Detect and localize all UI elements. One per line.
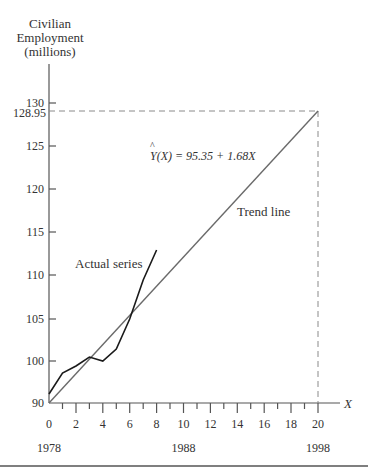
trend-line-label: Trend line	[237, 204, 291, 219]
y-axis-title: Civilian Employment (millions)	[16, 16, 84, 59]
svg-text:120: 120	[26, 182, 44, 196]
svg-text:0: 0	[46, 417, 52, 431]
trend-hat: ^	[150, 140, 155, 151]
x-axis-label: X	[343, 396, 353, 411]
y-ticks	[49, 103, 56, 361]
y-axis-title-line2: Employment	[16, 30, 84, 45]
svg-text:110: 110	[26, 268, 44, 282]
svg-text:125: 125	[26, 139, 44, 153]
svg-text:18: 18	[285, 417, 297, 431]
x-ticks	[63, 403, 319, 413]
svg-text:2: 2	[73, 417, 79, 431]
svg-text:4: 4	[100, 417, 106, 431]
svg-text:12: 12	[204, 417, 216, 431]
y-tick-labels: 90 100 105 110 115 120 125 130	[26, 96, 44, 410]
x-tick-labels: 0 2 4 6 8 10 12 14 16 18 20	[46, 417, 324, 431]
svg-text:6: 6	[127, 417, 133, 431]
svg-text:90: 90	[32, 396, 44, 410]
actual-series-label: Actual series	[75, 256, 143, 271]
svg-text:16: 16	[258, 417, 270, 431]
trend-equation: Y(X) = 95.35 + 1.68X	[150, 149, 256, 163]
svg-text:105: 105	[26, 312, 44, 326]
reference-value-label: 128.95	[13, 106, 46, 120]
actual-series-line	[49, 250, 157, 394]
year-labels: 1978 1988 1998	[37, 441, 330, 455]
y-axis-title-line1: Civilian	[29, 16, 71, 31]
svg-text:8: 8	[154, 417, 160, 431]
chart: Civilian Employment (millions) X 90 100 …	[0, 0, 368, 474]
svg-text:1978: 1978	[37, 441, 61, 455]
svg-text:100: 100	[26, 354, 44, 368]
svg-text:10: 10	[178, 417, 190, 431]
svg-text:20: 20	[312, 417, 324, 431]
svg-text:115: 115	[26, 225, 44, 239]
svg-text:1988: 1988	[172, 441, 196, 455]
svg-text:1998: 1998	[306, 441, 330, 455]
svg-text:14: 14	[231, 417, 243, 431]
y-axis-title-line3: (millions)	[24, 44, 75, 59]
